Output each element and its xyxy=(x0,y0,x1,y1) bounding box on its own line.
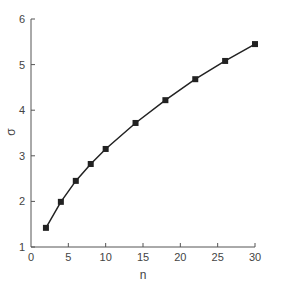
y-tick-label: 5 xyxy=(19,59,25,71)
data-point-marker xyxy=(192,76,198,82)
data-point-marker xyxy=(43,225,49,231)
x-tick-label: 0 xyxy=(28,251,34,263)
y-tick-label: 6 xyxy=(19,13,25,25)
y-axis-label: σ xyxy=(4,128,18,136)
x-tick-label: 20 xyxy=(174,251,186,263)
line-chart: 123456051015202530 n σ xyxy=(0,0,283,284)
y-tick-label: 2 xyxy=(19,195,25,207)
data-point-marker xyxy=(73,178,79,184)
data-point-marker xyxy=(222,58,228,64)
data-series xyxy=(43,41,258,231)
y-tick-label: 1 xyxy=(19,241,25,253)
series-line xyxy=(46,44,255,228)
data-point-marker xyxy=(88,161,94,167)
y-tick-label: 3 xyxy=(19,150,25,162)
x-tick-label: 25 xyxy=(212,251,224,263)
x-tick-label: 5 xyxy=(65,251,71,263)
data-point-marker xyxy=(252,41,258,47)
data-point-marker xyxy=(133,120,139,126)
data-point-marker xyxy=(162,97,168,103)
x-tick-label: 30 xyxy=(249,251,261,263)
y-tick-label: 4 xyxy=(19,104,25,116)
data-point-marker xyxy=(103,146,109,152)
data-point-marker xyxy=(58,199,64,205)
x-axis-label: n xyxy=(140,268,147,282)
x-tick-label: 10 xyxy=(100,251,112,263)
x-tick-label: 15 xyxy=(137,251,149,263)
axes: 123456051015202530 xyxy=(19,13,261,263)
